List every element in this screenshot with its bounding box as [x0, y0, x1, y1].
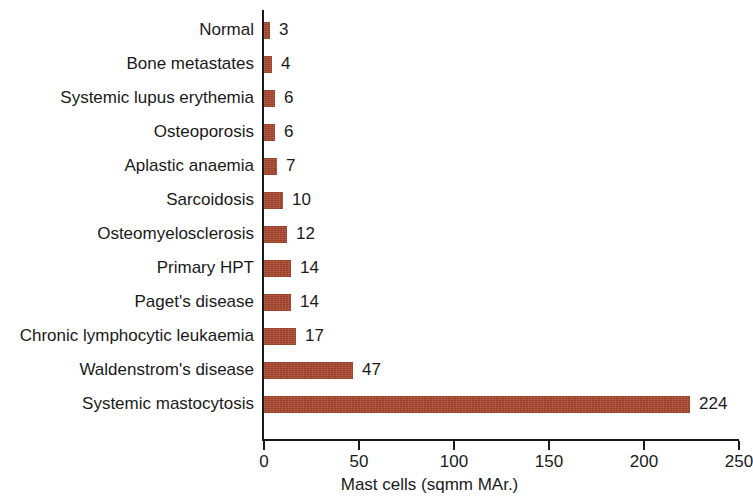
bar-value-label: 17 — [305, 319, 324, 353]
x-tick — [548, 441, 550, 450]
bar-row: Osteomyelosclerosis12 — [0, 217, 751, 251]
x-axis-line — [262, 439, 739, 441]
bar-value-label: 6 — [284, 115, 293, 149]
bar-row: Systemic lupus erythemia6 — [0, 81, 751, 115]
x-tick-label: 50 — [350, 451, 369, 472]
x-tick-label: 250 — [725, 451, 753, 472]
bar — [264, 294, 291, 311]
bar-value-label: 3 — [279, 13, 288, 47]
bar-value-label: 14 — [300, 251, 319, 285]
bar-value-label: 10 — [292, 183, 311, 217]
category-label: Primary HPT — [157, 251, 254, 285]
bar-row: Sarcoidosis10 — [0, 183, 751, 217]
category-label: Systemic lupus erythemia — [60, 81, 254, 115]
bar-value-label: 47 — [362, 353, 381, 387]
bar — [264, 226, 287, 243]
x-tick-label: 200 — [630, 451, 658, 472]
x-tick-label: 150 — [535, 451, 563, 472]
x-tick — [738, 441, 740, 450]
bar-row: Normal3 — [0, 13, 751, 47]
category-label: Sarcoidosis — [166, 183, 254, 217]
bar-value-label: 224 — [699, 387, 727, 421]
bar-value-label: 4 — [281, 47, 290, 81]
bar-row: Paget's disease14 — [0, 285, 751, 319]
bar-value-label: 14 — [300, 285, 319, 319]
bar — [264, 90, 275, 107]
bar — [264, 260, 291, 277]
bar-value-label: 12 — [296, 217, 315, 251]
x-tick — [263, 441, 265, 450]
bar-row: Osteoporosis6 — [0, 115, 751, 149]
bar-row: Primary HPT14 — [0, 251, 751, 285]
bar-value-label: 7 — [286, 149, 295, 183]
bar — [264, 22, 270, 39]
x-tick — [358, 441, 360, 450]
category-label: Paget's disease — [135, 285, 255, 319]
category-label: Systemic mastocytosis — [82, 387, 254, 421]
bar — [264, 158, 277, 175]
category-label: Aplastic anaemia — [125, 149, 254, 183]
category-label: Chronic lymphocytic leukaemia — [20, 319, 254, 353]
category-label: Bone metastates — [126, 47, 254, 81]
bar-row: Chronic lymphocytic leukaemia17 — [0, 319, 751, 353]
x-tick-label: 0 — [259, 451, 268, 472]
category-label: Waldenstrom's disease — [79, 353, 254, 387]
bar — [264, 328, 296, 345]
bar — [264, 362, 353, 379]
bar — [264, 192, 283, 209]
x-tick — [643, 441, 645, 450]
bar-row: Bone metastates4 — [0, 47, 751, 81]
bar — [264, 56, 272, 73]
x-axis-title: Mast cells (sqmm MAr.) — [0, 474, 751, 495]
bar-row: Waldenstrom's disease47 — [0, 353, 751, 387]
bar — [264, 124, 275, 141]
bar-value-label: 6 — [284, 81, 293, 115]
x-tick-label: 100 — [440, 451, 468, 472]
category-label: Osteoporosis — [154, 115, 254, 149]
bar-row: Systemic mastocytosis224 — [0, 387, 751, 421]
category-label: Normal — [199, 13, 254, 47]
bar — [264, 396, 690, 413]
x-tick — [453, 441, 455, 450]
category-label: Osteomyelosclerosis — [97, 217, 254, 251]
bar-row: Aplastic anaemia7 — [0, 149, 751, 183]
